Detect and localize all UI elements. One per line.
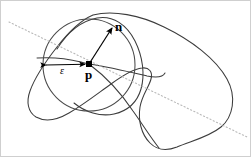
normal-vector-label: n [115, 20, 122, 33]
normal-vector-arrow [89, 28, 112, 64]
point-p-label: p [85, 68, 92, 81]
epsilon-radius-arrow [46, 64, 85, 65]
figure-canvas [1, 1, 250, 156]
geometry-figure: n p ε [0, 0, 251, 157]
epsilon-radius-label: ε [60, 66, 64, 76]
